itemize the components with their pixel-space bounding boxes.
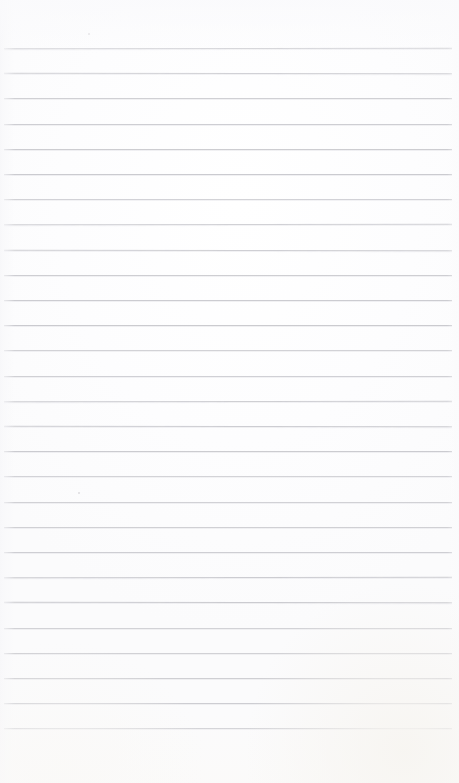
ruled-line [4, 224, 452, 225]
ruled-line [4, 451, 452, 452]
ruled-line [4, 552, 452, 553]
scanned-page [0, 0, 459, 783]
ruled-line [4, 703, 452, 704]
ruled-line [4, 728, 452, 729]
ruled-line [4, 476, 452, 477]
ruled-line [4, 249, 452, 250]
ruled-line [4, 199, 452, 200]
ruled-line [4, 678, 452, 679]
ruled-line [4, 577, 452, 578]
ruled-line [4, 174, 452, 175]
speck-top [88, 33, 90, 35]
ruled-line [4, 375, 452, 376]
ruled-line [4, 502, 452, 503]
ruled-line [4, 73, 452, 74]
ruled-line [4, 300, 452, 301]
ruled-line [4, 627, 452, 628]
ruled-line [4, 325, 452, 326]
ruled-lines-group [0, 0, 459, 783]
ruled-line [4, 149, 452, 150]
ruled-line [4, 48, 452, 49]
ruled-line [4, 602, 452, 603]
ruled-line [4, 350, 452, 351]
ruled-line [4, 275, 452, 276]
ruled-line [4, 98, 452, 99]
ruled-line [4, 124, 452, 125]
ruled-line [4, 527, 452, 528]
speck-mid [78, 492, 80, 494]
ruled-line [4, 653, 452, 654]
ruled-line [4, 401, 452, 402]
ruled-line [4, 426, 452, 427]
